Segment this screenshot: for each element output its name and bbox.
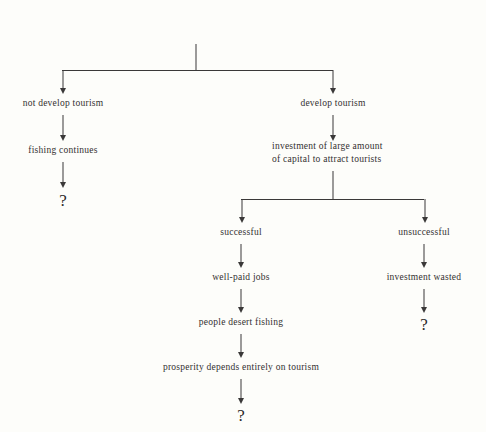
edge-successful-to-jobs	[241, 244, 242, 264]
edge-root-split-bar	[62, 70, 333, 71]
edge-investment-to-unsuccessful	[424, 199, 425, 218]
arrowhead-fishing-to-question	[60, 182, 66, 188]
node-well-paid-jobs: well-paid jobs	[212, 271, 270, 284]
arrowhead-investment-to-unsuccessful	[422, 217, 428, 223]
node-investment-line1: investment of large amount	[272, 140, 383, 153]
arrowhead-unsuccessful-to-wasted	[421, 262, 427, 268]
edge-wasted-to-question	[424, 289, 425, 309]
edge-prosperity-to-question	[241, 379, 242, 400]
node-question-left: ?	[59, 192, 67, 209]
edge-investment-to-successful	[241, 199, 242, 218]
arrowhead-no-tourism-to-fishing	[60, 135, 66, 141]
node-successful: successful	[220, 226, 262, 239]
edge-root-stem	[196, 44, 197, 70]
node-investment-line2: of capital to attract tourists	[272, 153, 381, 166]
arrowhead-jobs-to-desert-fishing	[238, 307, 244, 313]
arrowhead-root-to-no-tourism	[60, 88, 66, 94]
node-fishing-continues: fishing continues	[28, 144, 97, 157]
edge-jobs-to-desert-fishing	[241, 289, 242, 309]
node-investment-wasted: investment wasted	[387, 271, 462, 284]
edge-unsuccessful-to-wasted	[424, 244, 425, 264]
node-people-desert-fishing: people desert fishing	[199, 316, 283, 329]
arrowhead-investment-to-successful	[239, 217, 245, 223]
arrowhead-desert-fishing-to-prosperity	[238, 352, 244, 358]
edge-develop-tourism-to-investment	[333, 115, 334, 136]
arrowhead-wasted-to-question	[421, 307, 427, 313]
node-prosperity: prosperity depends entirely on tourism	[163, 361, 319, 374]
diagram-canvas: not develop tourism fishing continues ? …	[0, 0, 486, 432]
node-question-bottom: ?	[237, 407, 245, 424]
arrowhead-prosperity-to-question	[238, 398, 244, 404]
edge-no-tourism-to-fishing	[63, 115, 64, 136]
node-unsuccessful: unsuccessful	[398, 226, 450, 239]
arrowhead-successful-to-jobs	[238, 262, 244, 268]
node-not-develop-tourism: not develop tourism	[23, 97, 104, 110]
edge-investment-split-bar	[241, 199, 424, 200]
edge-root-to-no-tourism	[62, 70, 63, 89]
arrowhead-root-to-develop-tourism	[330, 88, 336, 94]
node-develop-tourism: develop tourism	[300, 97, 365, 110]
edge-investment-stem	[333, 171, 334, 199]
node-question-right: ?	[420, 316, 428, 333]
edge-root-to-develop-tourism	[333, 70, 334, 89]
edge-desert-fishing-to-prosperity	[241, 334, 242, 354]
edge-fishing-to-question	[63, 162, 64, 183]
